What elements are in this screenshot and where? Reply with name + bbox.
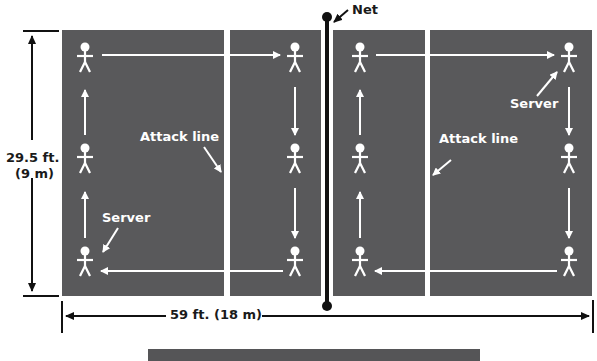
height-label-ft: 29.5 ft. (6, 150, 59, 165)
player-icon (561, 144, 577, 174)
attack-line-left-label: Attack line (140, 129, 219, 144)
player-icon (77, 144, 93, 174)
label-pointer-icon (103, 72, 557, 252)
player-icon (561, 43, 577, 73)
player-icon (561, 247, 577, 277)
player-icon (352, 247, 368, 277)
height-label-m: (9 m) (15, 166, 54, 181)
width-label: 59 ft. (18 m) (170, 307, 262, 322)
rotation-arrow-icon (85, 55, 295, 271)
player-icon (77, 247, 93, 277)
rotation-arrow-icon (360, 55, 569, 271)
net-label: Net (352, 2, 378, 17)
player-icon (352, 43, 368, 73)
player-icon (287, 247, 303, 277)
net (322, 10, 348, 311)
player-icon (287, 144, 303, 174)
player-icon (352, 144, 368, 174)
server-left-label: Server (102, 210, 150, 225)
player-icon (287, 43, 303, 73)
attack-line-right-label: Attack line (439, 131, 518, 146)
player-icon (77, 43, 93, 73)
bottom-bar (148, 349, 480, 361)
server-right-label: Server (510, 96, 558, 111)
